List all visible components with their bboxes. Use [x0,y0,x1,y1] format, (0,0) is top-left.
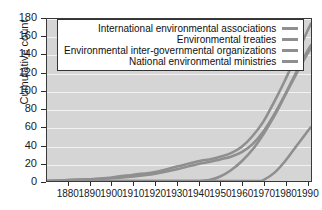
y-axis-tick-label: 140 [0,47,37,59]
legend-line-swatch [282,60,298,63]
x-axis-tick [264,182,265,186]
legend: International environmental associations… [57,19,304,71]
x-axis-tick [286,182,287,186]
y-axis-tick-label: 20 [0,157,37,169]
legend-item-label: National environmental ministries [129,56,276,67]
x-axis-tick [199,182,200,186]
x-axis-tick [308,182,309,186]
x-axis-tick [242,182,243,186]
x-axis-tick [90,182,91,186]
x-axis-tick-label: 1990 [288,188,322,199]
y-axis-tick-label: 80 [0,102,37,114]
y-axis-tick-label: 120 [0,66,37,78]
legend-item-2: Environmental treaties [64,34,298,45]
y-axis-tick-label: 160 [0,29,37,41]
x-axis-tick [155,182,156,186]
y-axis-tick-label: 40 [0,139,37,151]
y-axis-tick [41,182,46,183]
legend-line-swatch [282,49,298,52]
y-axis-tick-label: 180 [0,11,37,23]
x-axis-tick [177,182,178,186]
x-axis-tick [220,182,221,186]
legend-item-3: Environmental inter-governmental organiz… [64,45,298,56]
x-axis-tick [111,182,112,186]
cumulative-count-line-chart: Cumulative count 02040608010012014016018… [0,0,322,210]
y-axis-tick-label: 60 [0,120,37,132]
x-axis-tick [133,182,134,186]
legend-item-4: National environmental ministries [64,56,298,67]
legend-line-swatch [282,27,298,30]
legend-item-label: Environmental treaties [177,34,277,45]
legend-item-label: Environmental inter-governmental organiz… [64,45,276,56]
legend-line-swatch [282,38,298,41]
legend-item-1: International environmental associations [64,23,298,34]
x-axis-tick [68,182,69,186]
y-axis-tick-label: 0 [0,175,37,187]
y-axis-tick-label: 100 [0,84,37,96]
legend-item-label: International environmental associations [98,23,276,34]
series-line-4 [47,127,311,181]
